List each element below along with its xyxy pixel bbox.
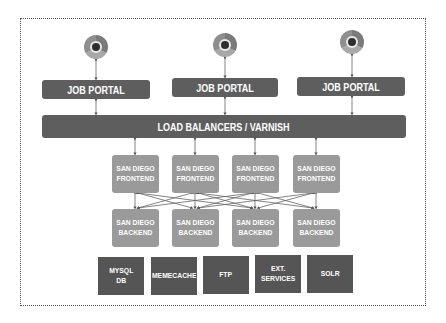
backend-label: SAN DIEGO BACKEND [116,218,154,238]
service-ext-services: EXT. SERVICES [255,255,301,293]
frontend-node: SAN DIEGO FRONTEND [232,155,279,193]
frontend-node: SAN DIEGO FRONTEND [112,155,159,193]
browser-icon-core [348,38,356,46]
service-label: MEMECACHE [152,271,197,281]
load-balancer-bar: LOAD BALANCERS / VARNISH [42,115,406,138]
job-portal-label: JOB PORTAL [322,81,379,93]
service-mysql-db: MYSQL DB [98,257,144,295]
service-label: SOLR [321,269,340,279]
service-label: FTP [220,270,233,280]
backend-node: SAN DIEGO BACKEND [293,209,340,247]
backend-label: SAN DIEGO BACKEND [297,218,335,238]
frontend-node: SAN DIEGO FRONTEND [293,155,340,193]
job-portal-box: JOB PORTAL [172,78,278,97]
service-label: MYSQL DB [109,266,133,286]
load-balancer-label: LOAD BALANCERS / VARNISH [158,121,290,133]
service-ftp: FTP [203,256,249,294]
browser-icon-core [221,41,229,49]
frontend-label: SAN DIEGO FRONTEND [176,164,214,184]
job-portal-label: JOB PORTAL [196,82,253,94]
browser-icon [340,30,364,54]
backend-node: SAN DIEGO BACKEND [172,209,219,247]
frontend-label: SAN DIEGO FRONTEND [297,164,335,184]
browser-icon [84,35,108,59]
frontend-label: SAN DIEGO FRONTEND [116,164,154,184]
browser-icon [213,33,237,57]
frontend-node: SAN DIEGO FRONTEND [172,155,219,193]
service-label: EXT. SERVICES [261,264,295,284]
backend-label: SAN DIEGO BACKEND [236,218,274,238]
service-memecache: MEMECACHE [151,257,197,295]
backend-label: SAN DIEGO BACKEND [176,218,214,238]
frontend-label: SAN DIEGO FRONTEND [236,164,274,184]
backend-node: SAN DIEGO BACKEND [232,209,279,247]
job-portal-box: JOB PORTAL [297,77,405,96]
backend-node: SAN DIEGO BACKEND [112,209,159,247]
job-portal-box: JOB PORTAL [42,80,150,99]
job-portal-label: JOB PORTAL [67,84,124,96]
service-solr: SOLR [307,255,353,293]
browser-icon-core [92,43,100,51]
